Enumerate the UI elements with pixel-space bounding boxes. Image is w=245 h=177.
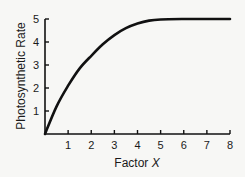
y-tick-label: 1	[33, 105, 39, 117]
x-tick-label: 3	[111, 139, 117, 151]
x-tick-label: 2	[88, 139, 94, 151]
x-tick-label: 5	[158, 139, 164, 151]
y-tick-label: 3	[33, 59, 39, 71]
y-tick-label: 4	[33, 36, 39, 48]
data-line	[45, 19, 230, 134]
y-tick-label: 5	[33, 13, 39, 25]
y-tick-label: 2	[33, 82, 39, 94]
x-tick-label: 7	[204, 139, 210, 151]
chart: 1234567812345 Photosynthetic Rate Factor…	[0, 0, 245, 177]
x-tick-label: 1	[65, 139, 71, 151]
tick-marks: 1234567812345	[33, 13, 233, 151]
x-tick-label: 4	[134, 139, 140, 151]
x-tick-label: 6	[181, 139, 187, 151]
x-axis-title: Factor X	[114, 156, 160, 170]
y-axis-title: Photosynthetic Rate	[14, 22, 28, 130]
x-tick-label: 8	[227, 139, 233, 151]
